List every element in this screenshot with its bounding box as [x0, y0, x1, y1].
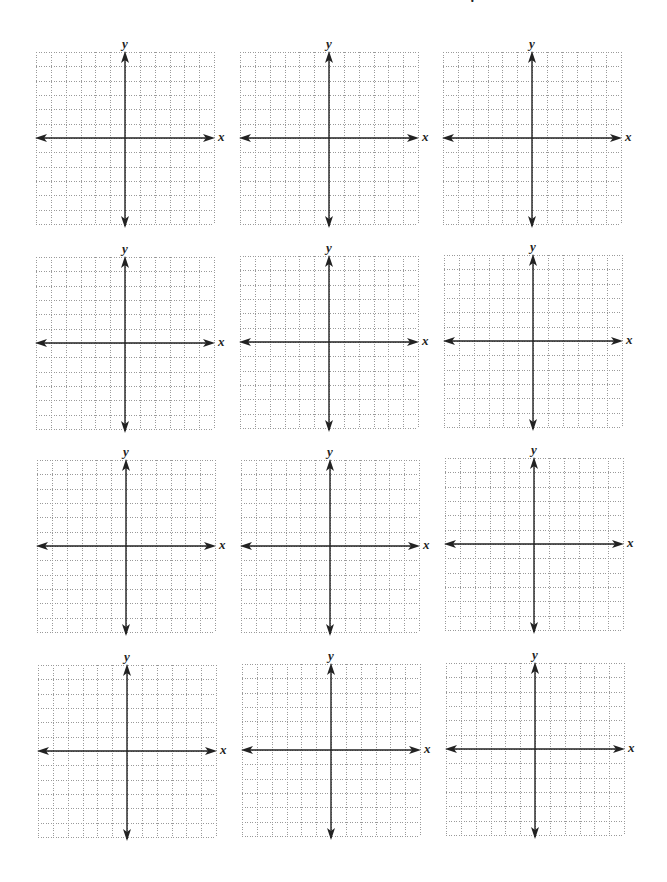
- cropped-heading-fragment: · ·: [470, 0, 530, 2]
- y-axis-label: y: [532, 648, 538, 661]
- coordinate-plane-12: y x: [446, 663, 646, 863]
- y-axis-label: y: [328, 649, 334, 662]
- coordinate-plane-11: y x: [242, 664, 442, 864]
- coordinate-plane-9: y x: [445, 458, 645, 658]
- coordinate-plane-7: y x: [37, 460, 237, 660]
- axes: [38, 665, 216, 837]
- x-axis-label: x: [424, 742, 431, 755]
- coordinate-plane-3: y x: [443, 52, 643, 252]
- x-axis-label: x: [625, 130, 632, 143]
- coordinate-plane-6: y x: [444, 255, 644, 455]
- axes: [36, 257, 214, 429]
- axes: [242, 664, 420, 836]
- coordinate-plane-1: y x: [36, 52, 236, 252]
- x-axis-label: x: [218, 335, 225, 348]
- y-axis-label: y: [122, 37, 128, 50]
- y-axis-label: y: [124, 650, 130, 663]
- axes: [444, 255, 622, 427]
- y-axis-label: y: [326, 37, 332, 50]
- x-axis-label: x: [628, 741, 635, 754]
- coordinate-plane-2: y x: [240, 52, 440, 252]
- y-axis-label: y: [531, 443, 537, 456]
- axes: [36, 52, 214, 224]
- x-axis-label: x: [218, 130, 225, 143]
- axes: [241, 460, 419, 632]
- y-axis-label: y: [529, 37, 535, 50]
- coordinate-plane-4: y x: [36, 257, 236, 457]
- x-axis-label: x: [422, 334, 429, 347]
- axes: [240, 256, 418, 428]
- axes: [445, 458, 623, 630]
- y-axis-label: y: [326, 241, 332, 254]
- axes: [446, 663, 624, 835]
- axes: [37, 460, 215, 632]
- y-axis-label: y: [123, 445, 129, 458]
- axes: [240, 52, 418, 224]
- x-axis-label: x: [626, 333, 633, 346]
- x-axis-label: x: [422, 130, 429, 143]
- x-axis-label: x: [423, 538, 430, 551]
- axes: [443, 52, 621, 224]
- x-axis-label: x: [219, 538, 226, 551]
- x-axis-label: x: [627, 536, 634, 549]
- coordinate-plane-5: y x: [240, 256, 440, 456]
- x-axis-label: x: [220, 743, 227, 756]
- y-axis-label: y: [122, 242, 128, 255]
- y-axis-label: y: [327, 445, 333, 458]
- coordinate-plane-10: y x: [38, 665, 238, 865]
- coordinate-plane-8: y x: [241, 460, 441, 660]
- y-axis-label: y: [530, 240, 536, 253]
